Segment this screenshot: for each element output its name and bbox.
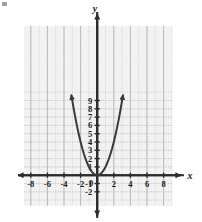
coordinate-plane-svg: -8-6-4-22468 -2-1123456789 y x 0 [0, 0, 202, 222]
x-axis-label: x [187, 170, 193, 181]
x-tick-label: 6 [145, 179, 149, 189]
x-tick-label: -8 [27, 179, 34, 189]
x-tick-label: -4 [60, 179, 68, 189]
x-tick-label: 8 [161, 179, 165, 189]
parabola-left-arrowhead [71, 95, 72, 101]
x-tick-label: 4 [128, 179, 133, 189]
x-tick-label: -6 [44, 179, 51, 189]
parabola-right-arrowhead [122, 95, 123, 101]
x-tick-label: -2 [77, 179, 84, 189]
corner-artifact [2, 2, 7, 6]
graph-figure: -8-6-4-22468 -2-1123456789 y x 0 [0, 0, 202, 222]
y-tick-label: 9 [88, 96, 92, 106]
y-axis-label: y [92, 3, 98, 14]
origin-label: 0 [89, 178, 93, 188]
x-tick-label: 2 [112, 179, 116, 189]
